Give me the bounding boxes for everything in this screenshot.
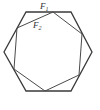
hexagon-diagram: F1 F2 bbox=[0, 0, 100, 110]
hexagon-f2 bbox=[14, 12, 82, 91]
label-f1: F1 bbox=[39, 1, 49, 12]
hexagon-f1 bbox=[4, 12, 92, 91]
label-f2: F2 bbox=[32, 20, 42, 31]
